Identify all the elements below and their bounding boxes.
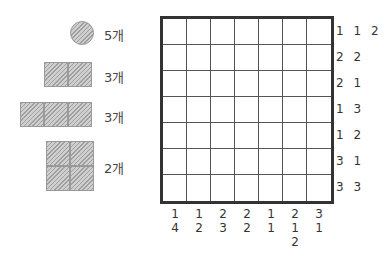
grid-cell[interactable]: [187, 71, 211, 97]
col-clue-number: 1: [283, 221, 307, 235]
grid-cell[interactable]: [235, 123, 259, 149]
row-clue: 1 1 2: [336, 24, 382, 38]
col-clue: 1 4: [163, 207, 187, 235]
grid-cell[interactable]: [283, 123, 307, 149]
col-clue: 3 1: [307, 207, 331, 235]
col-clue-number: 4: [163, 221, 187, 235]
grid-cell[interactable]: [211, 175, 235, 201]
grid-cell[interactable]: [211, 97, 235, 123]
col-clue-number: 1: [259, 221, 283, 235]
grid-cell[interactable]: [259, 97, 283, 123]
col-clue-number: 1: [163, 207, 187, 221]
grid-cell[interactable]: [259, 149, 283, 175]
grid-cell[interactable]: [307, 71, 331, 97]
grid-cell[interactable]: [187, 19, 211, 45]
col-clue-number: 3: [211, 221, 235, 235]
grid-cell[interactable]: [259, 71, 283, 97]
row-clue: 1 2: [336, 128, 364, 142]
col-clue: 1 2: [187, 207, 211, 235]
tromino-piece-count: 3개: [104, 107, 124, 126]
square-piece-count: 2개: [104, 158, 124, 177]
grid-cell[interactable]: [187, 123, 211, 149]
col-clue-number: 2: [235, 207, 259, 221]
row-clue: 3 3: [336, 180, 364, 194]
grid-cell[interactable]: [307, 97, 331, 123]
piece-cell: [68, 102, 92, 127]
grid-cell[interactable]: [259, 123, 283, 149]
col-clue-number: 1: [307, 221, 331, 235]
grid-cell[interactable]: [211, 123, 235, 149]
piece-cell: [46, 166, 70, 191]
grid-cell[interactable]: [163, 71, 187, 97]
piece-cell: [44, 102, 68, 127]
col-clue: 2 1 2: [283, 207, 307, 249]
col-clue-number: 1: [187, 207, 211, 221]
col-clue-number: 2: [283, 207, 307, 221]
grid-cell[interactable]: [307, 149, 331, 175]
col-clue: 1 1: [259, 207, 283, 235]
grid-cell[interactable]: [307, 175, 331, 201]
col-clue-number: 1: [259, 207, 283, 221]
grid-cell[interactable]: [283, 19, 307, 45]
grid-cell[interactable]: [163, 19, 187, 45]
grid-cell[interactable]: [163, 45, 187, 71]
grid-cell[interactable]: [211, 149, 235, 175]
grid-cell[interactable]: [283, 97, 307, 123]
piece-cell: [68, 62, 92, 87]
puzzle-grid: [160, 16, 334, 204]
grid-cell[interactable]: [307, 45, 331, 71]
domino-piece: [44, 62, 92, 87]
grid-cell[interactable]: [163, 123, 187, 149]
piece-cell: [46, 141, 70, 166]
grid-cell[interactable]: [163, 149, 187, 175]
col-clue-number: 2: [187, 221, 211, 235]
grid-cell[interactable]: [211, 71, 235, 97]
piece-cell: [70, 141, 94, 166]
piece-cell: [44, 62, 68, 87]
grid-cell[interactable]: [235, 71, 259, 97]
grid-cell[interactable]: [187, 175, 211, 201]
grid-cell[interactable]: [283, 71, 307, 97]
circle-piece: [70, 21, 94, 45]
grid-cell[interactable]: [283, 149, 307, 175]
row-clue: 1 3: [336, 102, 364, 116]
tromino-piece: [20, 102, 92, 127]
domino-piece-count: 3개: [104, 67, 124, 86]
row-clue: 3 1: [336, 154, 364, 168]
row-clue: 2 1: [336, 76, 364, 90]
grid-cell[interactable]: [211, 19, 235, 45]
grid-cell[interactable]: [235, 175, 259, 201]
grid-cell[interactable]: [259, 175, 283, 201]
col-clue: 2 2: [235, 207, 259, 235]
grid-cell[interactable]: [187, 149, 211, 175]
col-clue: 2 3: [211, 207, 235, 235]
square-piece: [46, 141, 94, 191]
col-clue-number: 2: [235, 221, 259, 235]
grid-cell[interactable]: [307, 19, 331, 45]
grid-cell[interactable]: [211, 45, 235, 71]
grid-cell[interactable]: [235, 45, 259, 71]
grid-cell[interactable]: [235, 19, 259, 45]
grid-cell[interactable]: [235, 149, 259, 175]
grid-cell[interactable]: [163, 175, 187, 201]
row-clue: 2 2: [336, 50, 364, 64]
col-clue-number: 3: [307, 207, 331, 221]
circle-piece-count: 5개: [104, 25, 124, 44]
grid-cell[interactable]: [235, 97, 259, 123]
col-clue-number: 2: [211, 207, 235, 221]
piece-cell: [70, 166, 94, 191]
grid-cell[interactable]: [187, 97, 211, 123]
grid-cell[interactable]: [283, 45, 307, 71]
grid-cell[interactable]: [283, 175, 307, 201]
grid-cell[interactable]: [187, 45, 211, 71]
grid-cell[interactable]: [259, 45, 283, 71]
grid-cell[interactable]: [163, 97, 187, 123]
grid-cell[interactable]: [259, 19, 283, 45]
col-clue-number: 2: [283, 235, 307, 249]
piece-cell: [20, 102, 44, 127]
grid-cell[interactable]: [307, 123, 331, 149]
